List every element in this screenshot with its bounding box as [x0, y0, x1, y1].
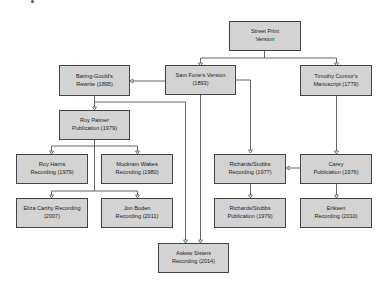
- node-label-line1: Carey: [313, 161, 358, 169]
- node-street-print[interactable]: Street PrintVersion: [229, 21, 301, 51]
- arrowhead-rsrec-left: [286, 166, 289, 170]
- node-label-line2: Recording (1979): [30, 169, 73, 177]
- arrowhead-baringgould: [130, 79, 133, 83]
- node-label-line1: Eriksen: [314, 205, 357, 213]
- node-label-line2: Recording (1980): [115, 169, 158, 177]
- node-label-line2: Publication (1976): [313, 169, 358, 177]
- node-askew-sisters[interactable]: Askew SistersRecording (2014): [158, 243, 229, 273]
- arrowhead-rsrec: [249, 150, 253, 153]
- edge-roypalmer-to-jonboden: [95, 191, 138, 198]
- node-label-line1: Timothy Connor's: [313, 73, 358, 81]
- node-label-line1: Sam Fone's Version: [176, 72, 226, 80]
- node-label-line1: Jon Boden: [116, 205, 159, 213]
- node-label-line2: Version: [251, 36, 279, 44]
- node-label-line1: Richards/Stubbs: [227, 205, 272, 213]
- node-richards-stubbs-publication[interactable]: Richards/StubbsPublication (1979): [214, 198, 286, 228]
- node-eriksen[interactable]: EriksenRecording (2010): [300, 198, 372, 228]
- node-jon-boden[interactable]: Jon BodenRecording (2011): [101, 198, 173, 228]
- node-label-line1: Muckram Wakes: [115, 161, 158, 169]
- node-eliza-carthy[interactable]: Eliza Carthy Recording(2007): [16, 198, 88, 228]
- node-muckram-wakes[interactable]: Muckram WakesRecording (1980): [101, 154, 173, 184]
- node-label-line2: Manuscript (1779): [313, 81, 358, 89]
- node-label-line1: Roy Harris: [30, 161, 73, 169]
- edge-roypalmer-to-royharris: [52, 146, 95, 154]
- node-sam-fone[interactable]: Sam Fone's Version(1893): [165, 65, 236, 95]
- node-label-line1: Street Print: [251, 28, 279, 36]
- node-label-line2: Recording (2011): [116, 213, 159, 221]
- node-label-line1: Roy Palmer: [72, 117, 117, 125]
- edge-street-to-samfone: [201, 51, 265, 65]
- node-label-line2: Rewrite (1895): [76, 81, 113, 89]
- edge-samfone-to-rsrec: [236, 80, 251, 153]
- node-label-line2: Recording (1977): [228, 169, 271, 177]
- edge-street-to-timothy: [265, 58, 337, 65]
- node-label-line1: Eliza Carthy Recording: [23, 205, 80, 213]
- node-baring-gould[interactable]: Baring-Gould'sRewrite (1895): [59, 65, 130, 96]
- node-label-line2: (1893): [176, 80, 226, 88]
- lineage-diagram: Street PrintVersion Sam Fone's Version(1…: [0, 0, 389, 285]
- edge-roypalmer-to-eliza: [52, 191, 95, 198]
- edge-roypalmer-to-muckram: [95, 146, 138, 154]
- node-roy-palmer[interactable]: Roy PalmerPublication (1979): [59, 110, 130, 140]
- node-label-line1: Askew Sisters: [172, 250, 215, 258]
- node-label-line2: (2007): [23, 213, 80, 221]
- node-label-line1: Baring-Gould's: [76, 73, 113, 81]
- node-richards-stubbs-recording[interactable]: Richards/StubbsRecording (1977): [214, 154, 286, 184]
- node-label-line2: Recording (2010): [314, 213, 357, 221]
- stray-dot: [31, 0, 34, 3]
- node-label-line2: Recording (2014): [172, 258, 215, 266]
- node-carey[interactable]: CareyPublication (1976): [300, 154, 372, 184]
- node-label-line2: Publication (1979): [72, 125, 117, 133]
- node-timothy-connor[interactable]: Timothy Connor'sManuscript (1779): [300, 65, 372, 96]
- node-label-line2: Publication (1979): [227, 213, 272, 221]
- node-roy-harris[interactable]: Roy HarrisRecording (1979): [16, 154, 88, 184]
- node-label-line1: Richards/Stubbs: [228, 161, 271, 169]
